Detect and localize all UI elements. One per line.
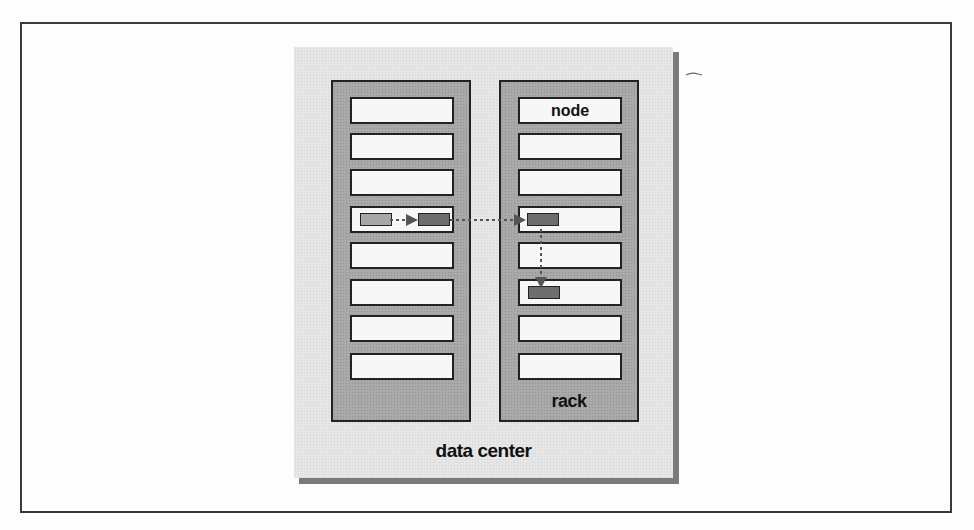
node bbox=[350, 206, 454, 233]
node bbox=[518, 133, 622, 160]
node bbox=[350, 315, 454, 342]
data-center-label: data center bbox=[294, 440, 673, 462]
node bbox=[350, 242, 454, 269]
node bbox=[350, 279, 454, 306]
node bbox=[518, 315, 622, 342]
node bbox=[518, 353, 622, 380]
node-labeled: node bbox=[518, 97, 622, 124]
data-block-replica-4 bbox=[528, 286, 560, 299]
data-block-replica-1 bbox=[360, 213, 392, 226]
rack-label: rack bbox=[501, 391, 637, 412]
node bbox=[518, 242, 622, 269]
node bbox=[350, 353, 454, 380]
node bbox=[518, 206, 622, 233]
node bbox=[518, 169, 622, 196]
node bbox=[350, 97, 454, 124]
rack-right: node rack bbox=[499, 80, 639, 422]
node bbox=[350, 169, 454, 196]
data-block-replica-3 bbox=[527, 213, 559, 226]
data-block-replica-2 bbox=[418, 213, 450, 226]
node bbox=[350, 133, 454, 160]
node bbox=[518, 279, 622, 306]
rack-left bbox=[331, 80, 471, 422]
